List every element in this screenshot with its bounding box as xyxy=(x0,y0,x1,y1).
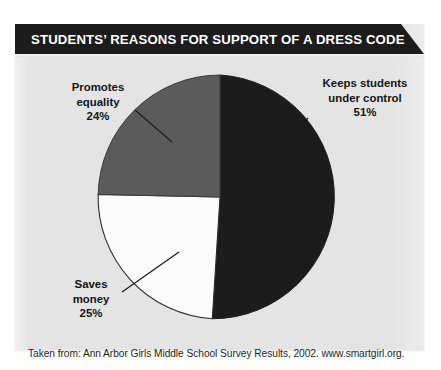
slice-label-keeps-students-under-control: Keeps students under control 51% xyxy=(305,76,425,120)
slice-label-line1: Saves xyxy=(75,278,108,290)
banner-underline xyxy=(15,54,424,57)
slice-label-line2: equality xyxy=(76,96,119,108)
pie-chart-figure: STUDENTS’ REASONS FOR SUPPORT OF A DRESS… xyxy=(0,0,441,370)
slice-label-line1: Promotes xyxy=(72,81,125,93)
title-banner: STUDENTS’ REASONS FOR SUPPORT OF A DRESS… xyxy=(15,24,424,54)
slice-label-saves-money: Saves money 25% xyxy=(55,277,127,321)
slice-label-promotes-equality: Promotes equality 24% xyxy=(52,80,144,124)
slice-label-line1: Keeps students xyxy=(323,77,408,89)
slice-label-percent: 24% xyxy=(52,109,144,124)
page-title: STUDENTS’ REASONS FOR SUPPORT OF A DRESS… xyxy=(15,32,405,47)
slice-label-line2: money xyxy=(73,293,110,305)
slice-label-percent: 25% xyxy=(55,306,127,321)
slice-label-percent: 51% xyxy=(305,105,425,120)
source-caption: Taken from: Ann Arbor Girls Middle Schoo… xyxy=(28,348,404,359)
slice-label-line2: under control xyxy=(328,92,401,104)
